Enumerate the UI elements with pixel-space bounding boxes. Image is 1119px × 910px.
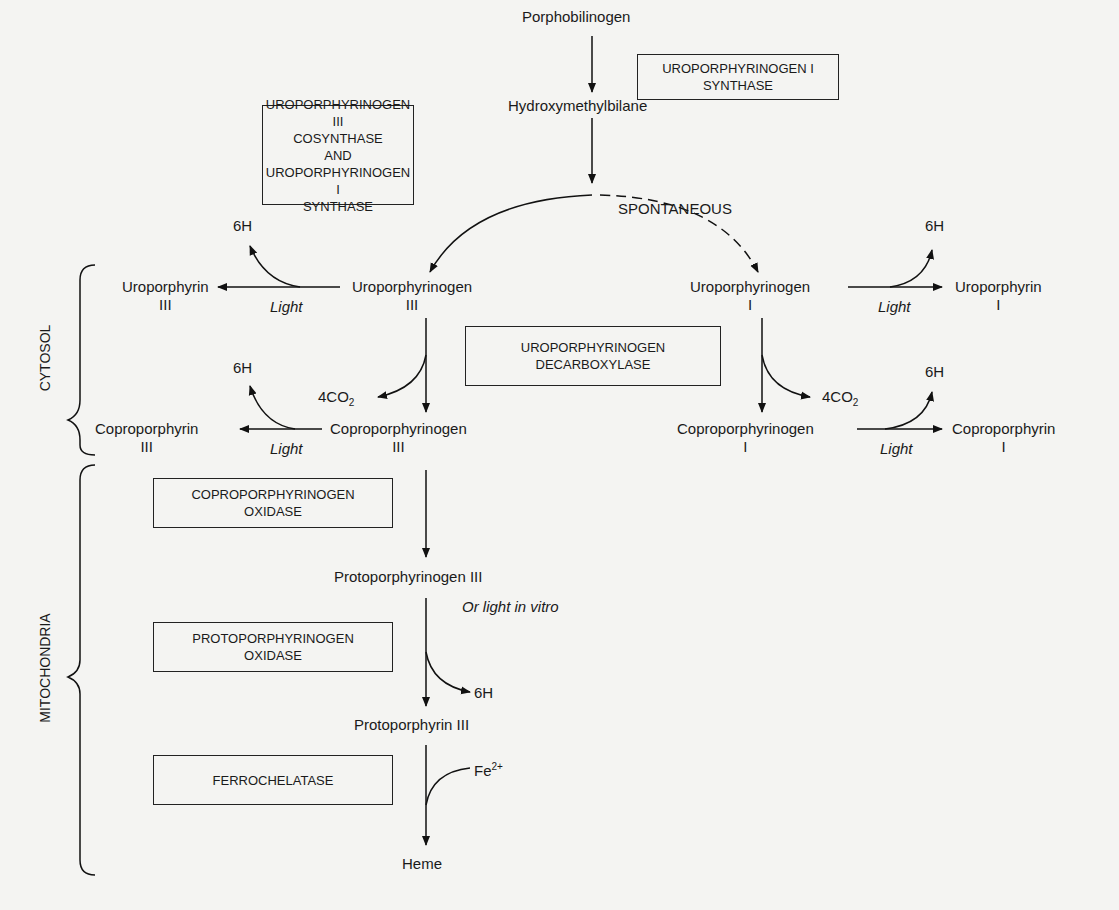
6h-copro3: 6H xyxy=(233,359,252,377)
enzyme-protoporphyrinogen-oxidase: PROTOPORPHYRINOGENOXIDASE xyxy=(153,622,393,672)
heme: Heme xyxy=(402,855,442,873)
6h-copro1: 6H xyxy=(925,363,944,381)
light-label-uro3: Light xyxy=(270,298,303,316)
4co2-right: 4CO2 xyxy=(822,388,858,412)
or-light-in-vitro-label: Or light in vitro xyxy=(462,598,559,616)
light-label-copro1: Light xyxy=(880,440,913,458)
6h-proto: 6H xyxy=(474,684,493,702)
protoporphyrinogen-iii: Protoporphyrinogen III xyxy=(334,568,482,586)
porphobilinogen: Porphobilinogen xyxy=(522,8,630,26)
enzyme-coproporphyrinogen-oxidase: COPROPORPHYRINOGENOXIDASE xyxy=(153,478,393,528)
fe2-ion: Fe2+ xyxy=(474,758,503,780)
compartment-mitochondria-label: MITOCHONDRIA xyxy=(37,613,53,722)
coproporphyrinogen-i: Coproporphyrinogen I xyxy=(677,420,814,456)
uroporphyrinogen-i: Uroporphyrinogen I xyxy=(690,278,810,314)
light-label-copro3: Light xyxy=(270,440,303,458)
compartment-cytosol-label: CYTOSOL xyxy=(37,325,53,392)
enzyme-uroporphyrinogen-decarboxylase: UROPORPHYRINOGENDECARBOXYLASE xyxy=(465,326,721,386)
coproporphyrin-iii: Coproporphyrin III xyxy=(95,420,198,456)
uroporphyrin-i: Uroporphyrin I xyxy=(955,278,1042,314)
hydroxymethylbilane: Hydroxymethylbilane xyxy=(508,97,647,115)
4co2-left: 4CO2 xyxy=(318,388,354,412)
protoporphyrin-iii: Protoporphyrin III xyxy=(354,716,469,734)
light-label-uro1: Light xyxy=(878,298,911,316)
spontaneous-label: SPONTANEOUS xyxy=(618,200,732,218)
uroporphyrinogen-iii: Uroporphyrinogen III xyxy=(352,278,472,314)
6h-uro1: 6H xyxy=(925,217,944,235)
enzyme-ferrochelatase: FERROCHELATASE xyxy=(153,755,393,805)
coproporphyrin-i: Coproporphyrin I xyxy=(952,420,1055,456)
6h-uro3: 6H xyxy=(233,217,252,235)
enzyme-uroporphyrinogen-iii-cosynthase: UROPORPHYRINOGEN IIICOSYNTHASEANDUROPORP… xyxy=(262,105,414,205)
enzyme-uroporphyrinogen-i-synthase: UROPORPHYRINOGEN ISYNTHASE xyxy=(637,54,839,100)
uroporphyrin-iii: Uroporphyrin III xyxy=(122,278,209,314)
coproporphyrinogen-iii: Coproporphyrinogen III xyxy=(330,420,467,456)
